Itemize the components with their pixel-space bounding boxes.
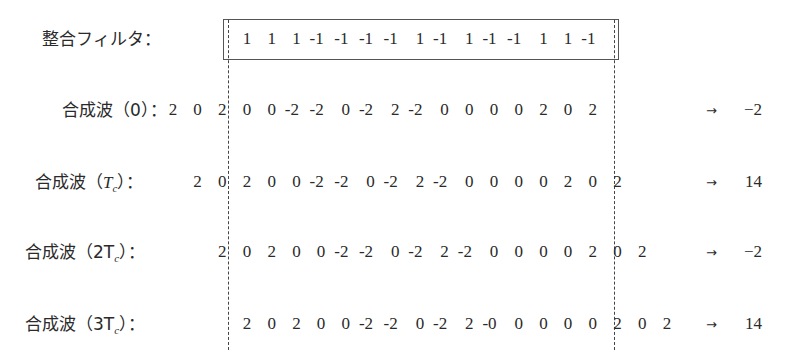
- wave-sample: 0: [556, 242, 580, 262]
- wave-sample: 0: [309, 314, 333, 334]
- row-label-suffix: ）：: [117, 172, 143, 192]
- correlation-result: 14: [745, 172, 762, 192]
- row-label-suffix: ）：: [119, 314, 145, 334]
- wave-sample: 2: [581, 100, 605, 120]
- wave-sample: 0: [284, 242, 308, 262]
- wave-sample: 2: [161, 100, 185, 120]
- filter-coefficient: 1: [235, 29, 259, 49]
- result-row-3tc: →14: [706, 314, 762, 335]
- wave-sample: 2: [383, 100, 407, 120]
- wave-sample: -2: [334, 242, 358, 262]
- wave-sample: 0: [186, 100, 210, 120]
- wave-sample: 2: [606, 172, 630, 192]
- wave-sample: 0: [606, 242, 630, 262]
- row-label-0: 合成波（0）：: [62, 100, 167, 120]
- wave-sample: 0: [556, 100, 580, 120]
- wave-sample: -2: [359, 100, 383, 120]
- wave-sample: 2: [655, 314, 679, 334]
- row-label-text: 合成波（: [35, 172, 103, 192]
- filter-coefficient: 1: [556, 29, 580, 49]
- arrow-right-icon: →: [706, 245, 717, 260]
- row-label-text: 合成波（2T: [25, 242, 114, 262]
- wave-sample: -2: [433, 314, 457, 334]
- wave-sample: 2: [235, 172, 259, 192]
- row-label-text: 合成波（0）：: [62, 100, 167, 120]
- wave-sample: 0: [482, 172, 506, 192]
- filter-coefficient: -1: [383, 29, 407, 49]
- filter-coefficient: -1: [359, 29, 383, 49]
- wave-sample: 0: [408, 314, 432, 334]
- correlation-result: −2: [744, 242, 762, 262]
- wave-sample: 0: [383, 242, 407, 262]
- wave-sample: -2: [284, 100, 308, 120]
- wave-sample: 0: [260, 100, 284, 120]
- wave-sample: 2: [186, 172, 210, 192]
- filter-coefficient: -1: [309, 29, 333, 49]
- wave-sample: -2: [457, 242, 481, 262]
- wave-sample: -0: [482, 314, 506, 334]
- wave-sample: 0: [457, 172, 481, 192]
- arrow-right-icon: →: [706, 317, 717, 332]
- filter-coefficient: -1: [581, 29, 605, 49]
- wave-sample: 0: [260, 172, 284, 192]
- wave-sample: 2: [235, 314, 259, 334]
- wave-sample: 0: [531, 242, 555, 262]
- result-row-0: →−2: [706, 100, 762, 121]
- filter-coefficient: -1: [334, 29, 358, 49]
- wave-sample: 0: [482, 100, 506, 120]
- wave-sample: 2: [606, 314, 630, 334]
- wave-sample: 2: [284, 314, 308, 334]
- wave-sample: 0: [235, 242, 259, 262]
- wave-sample: 0: [507, 100, 531, 120]
- row-label-text: 合成波（3T: [25, 314, 114, 334]
- wave-sample: -2: [359, 314, 383, 334]
- filter-label: 整合フィルタ：: [42, 29, 161, 49]
- wave-sample: -2: [383, 314, 407, 334]
- wave-sample: -2: [334, 172, 358, 192]
- wave-sample: 2: [408, 172, 432, 192]
- wave-sample: 0: [482, 242, 506, 262]
- wave-sample: 0: [630, 314, 654, 334]
- row-label-tc: 合成波（Tc）：: [35, 172, 143, 198]
- filter-coefficient: 1: [260, 29, 284, 49]
- filter-coefficient: 1: [531, 29, 555, 49]
- wave-sample: 0: [210, 172, 234, 192]
- wave-sample: 0: [507, 314, 531, 334]
- wave-sample: 0: [531, 314, 555, 334]
- correlation-result: −2: [744, 100, 762, 120]
- wave-sample: 0: [556, 314, 580, 334]
- wave-sample: 2: [581, 242, 605, 262]
- row-label-2tc: 合成波（2Tc）：: [25, 242, 145, 268]
- row-label-suffix: ）：: [119, 242, 145, 262]
- filter-coefficient: 1: [284, 29, 308, 49]
- arrow-right-icon: →: [706, 103, 717, 118]
- wave-sample: 2: [457, 314, 481, 334]
- wave-sample: 0: [581, 172, 605, 192]
- wave-sample: -2: [359, 242, 383, 262]
- wave-sample: 0: [334, 314, 358, 334]
- wave-sample: -2: [309, 100, 333, 120]
- result-row-2tc: →−2: [706, 242, 762, 263]
- wave-sample: 2: [433, 242, 457, 262]
- filter-coefficient: 1: [457, 29, 481, 49]
- correlation-result: 14: [745, 314, 762, 334]
- filter-coefficient: -1: [482, 29, 506, 49]
- wave-sample: 0: [507, 172, 531, 192]
- arrow-right-icon: →: [706, 175, 717, 190]
- wave-sample: -2: [408, 242, 432, 262]
- filter-coefficient: -1: [433, 29, 457, 49]
- result-row-tc: →14: [706, 172, 762, 193]
- wave-sample: 0: [531, 172, 555, 192]
- wave-sample: 2: [260, 242, 284, 262]
- wave-sample: -2: [383, 172, 407, 192]
- row-label-3tc: 合成波（3Tc）：: [25, 314, 145, 340]
- wave-sample: 2: [531, 100, 555, 120]
- filter-coefficient: -1: [507, 29, 531, 49]
- wave-sample: 0: [359, 172, 383, 192]
- wave-sample: 0: [581, 314, 605, 334]
- wave-sample: 2: [210, 100, 234, 120]
- wave-sample: 2: [556, 172, 580, 192]
- wave-sample: -2: [309, 172, 333, 192]
- wave-sample: -2: [408, 100, 432, 120]
- wave-sample: 0: [309, 242, 333, 262]
